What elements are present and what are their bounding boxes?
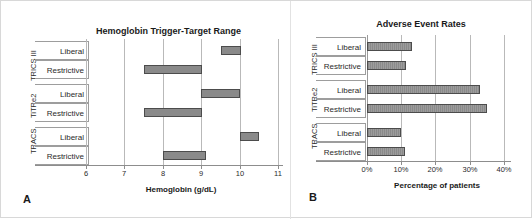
bar-trics-iii-liberal — [367, 42, 412, 51]
bar-tracs-restrictive — [367, 147, 405, 156]
panel-b-axis-title: Percentage of patients — [394, 181, 480, 190]
panel-b: Adverse Event Rates TRICS III TiTRe2 TRA… — [291, 1, 532, 218]
tick-label-10pct: 10% — [393, 165, 408, 174]
tick-label-7: 7 — [122, 169, 126, 178]
panel-b-letter: B — [309, 191, 317, 203]
tick-label-10: 10 — [236, 169, 244, 178]
panel-a-plot-area — [35, 39, 283, 165]
panel-b-title: Adverse Event Rates — [341, 19, 501, 29]
range-bar-titre2-liberal — [201, 89, 240, 98]
range-bar-trics-iii-liberal — [221, 46, 241, 55]
bar-titre2-liberal — [367, 85, 480, 94]
range-bar-trics-iii-restrictive — [144, 65, 202, 74]
gridline-7 — [124, 39, 125, 165]
panel-b-plot-area — [316, 35, 511, 161]
bar-titre2-restrictive — [367, 104, 487, 113]
gridline-8 — [163, 39, 164, 165]
tick-label-8: 8 — [161, 169, 165, 178]
bar-tracs-liberal — [367, 128, 401, 137]
panel-a: Hemoglobin Trigger-Target Range TRICS II… — [1, 1, 291, 218]
tick-label-40pct: 40% — [496, 165, 511, 174]
panel-a-letter: A — [23, 193, 31, 205]
range-bar-tracs-liberal — [240, 132, 259, 141]
gridline-9 — [201, 39, 202, 165]
range-bar-tracs-restrictive — [163, 151, 206, 160]
range-bar-titre2-restrictive — [144, 108, 202, 117]
tick-label-30pct: 30% — [462, 165, 477, 174]
panel-a-x-axis — [35, 165, 283, 166]
tick-label-9: 9 — [199, 169, 203, 178]
gridline-0pct — [367, 35, 368, 161]
tick-label-6: 6 — [84, 169, 88, 178]
gridline-10pct — [401, 35, 402, 161]
tick-label-0pct: 0% — [362, 165, 373, 174]
panel-a-title: Hemoglobin Trigger-Target Range — [61, 26, 276, 36]
tick-label-11: 11 — [274, 169, 282, 178]
gridline-11 — [278, 39, 279, 165]
panel-a-axis-title: Hemoglobin (g/dL) — [146, 185, 217, 194]
figure-container: Hemoglobin Trigger-Target Range TRICS II… — [0, 0, 532, 218]
bar-trics-iii-restrictive — [367, 61, 406, 70]
gridline-30pct — [470, 35, 471, 161]
panel-b-x-axis — [316, 161, 511, 162]
gridline-40pct — [504, 35, 505, 161]
gridline-10 — [240, 39, 241, 165]
tick-label-20pct: 20% — [427, 165, 442, 174]
gridline-20pct — [435, 35, 436, 161]
gridline-6 — [86, 39, 87, 165]
